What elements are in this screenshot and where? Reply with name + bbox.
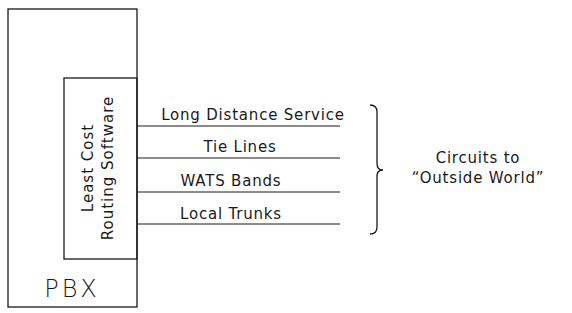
group-label-line1: Circuits to — [436, 149, 521, 167]
diagram-canvas: PBX Least Cost Routing Software Long Dis… — [0, 0, 572, 313]
circuit-label-tie-lines: Tie Lines — [202, 138, 276, 156]
pbx-box — [8, 9, 137, 307]
circuit-label-long-distance: Long Distance Service — [161, 106, 345, 124]
routing-software-label-line1: Least Cost — [79, 124, 97, 212]
group-label-line2: “Outside World” — [412, 169, 545, 187]
pbx-label: PBX — [44, 275, 100, 303]
curly-brace-icon — [370, 105, 383, 234]
circuit-label-wats-bands: WATS Bands — [181, 172, 282, 190]
routing-software-label-line2: Routing Software — [99, 96, 117, 240]
circuit-label-local-trunks: Local Trunks — [180, 205, 282, 223]
